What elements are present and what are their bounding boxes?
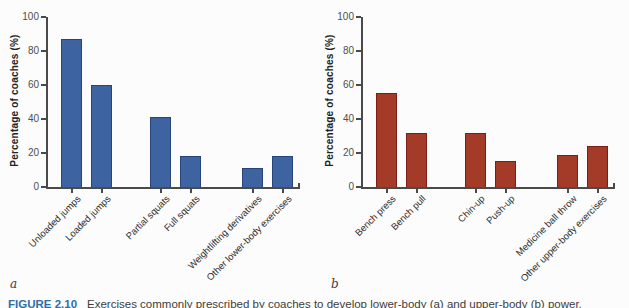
x-tick-mark	[71, 189, 73, 193]
category-label: Push-up	[402, 193, 516, 307]
x-axis-end-tick	[298, 183, 300, 187]
y-tick-label: 40	[13, 113, 39, 125]
figure-caption-label: FIGURE 2.10	[8, 298, 77, 308]
x-tick-mark	[567, 189, 569, 193]
x-tick-mark	[475, 189, 477, 193]
y-tick-label: 0	[328, 181, 354, 193]
chart-panel-a: Percentage of coaches (%)020406080100Unl…	[0, 0, 315, 296]
bar-push-up	[495, 161, 516, 187]
figure-2-10: Percentage of coaches (%)020406080100Unl…	[0, 0, 629, 308]
category-label: Full squats	[87, 193, 201, 307]
x-axis-end-tick	[613, 183, 615, 187]
x-axis-line	[46, 187, 300, 189]
y-tick-label: 60	[328, 79, 354, 91]
x-tick-mark	[386, 189, 388, 193]
bar-medicine-ball-throw	[557, 155, 578, 187]
y-tick-label: 20	[328, 147, 354, 159]
y-tick-label: 80	[328, 45, 354, 57]
bar-other-lower-body-exercises	[272, 156, 293, 187]
y-tick-label: 100	[328, 11, 354, 23]
bar-chin-up	[465, 133, 486, 187]
x-axis-line	[361, 187, 615, 189]
bar-weightlifting-derivatives	[242, 168, 263, 187]
bar-loaded-jumps	[91, 85, 112, 187]
bar-full-squats	[180, 156, 201, 187]
category-label: Other lower-body exercises	[179, 193, 293, 307]
x-tick-mark	[416, 189, 418, 193]
figure-caption-text: Exercises commonly prescribed by coaches…	[87, 298, 582, 308]
category-label: Other upper-body exercises	[494, 193, 608, 307]
y-tick-label: 0	[13, 181, 39, 193]
x-tick-mark	[505, 189, 507, 193]
category-label: Weightlifting derivatives	[149, 193, 263, 307]
bar-unloaded-jumps	[61, 39, 82, 187]
y-axis-line	[361, 17, 363, 189]
category-label: Chin-up	[372, 193, 486, 307]
x-tick-mark	[190, 189, 192, 193]
y-axis-title: Percentage of coaches (%)	[9, 11, 20, 191]
panel-letter-b: b	[331, 277, 339, 291]
bar-partial-squats	[150, 117, 171, 187]
y-axis-line	[46, 17, 48, 189]
y-tick-label: 100	[13, 11, 39, 23]
figure-caption: FIGURE 2.10Exercises commonly prescribed…	[8, 298, 623, 308]
x-tick-mark	[160, 189, 162, 193]
x-tick-mark	[597, 189, 599, 193]
y-tick-label: 80	[13, 45, 39, 57]
x-tick-mark	[101, 189, 103, 193]
bar-bench-press	[376, 93, 397, 187]
y-tick-label: 20	[13, 147, 39, 159]
y-tick-label: 40	[328, 113, 354, 125]
category-label: Medicine ball throw	[464, 193, 578, 307]
chart-panel-b: Percentage of coaches (%)020406080100Ben…	[315, 0, 629, 296]
y-tick-label: 60	[13, 79, 39, 91]
panel-letter-a: a	[10, 277, 17, 291]
category-label: Partial squats	[57, 193, 171, 307]
x-tick-mark	[282, 189, 284, 193]
y-axis-title: Percentage of coaches (%)	[324, 11, 335, 191]
bar-other-upper-body-exercises	[587, 146, 608, 187]
bar-bench-pull	[406, 133, 427, 187]
x-tick-mark	[252, 189, 254, 193]
